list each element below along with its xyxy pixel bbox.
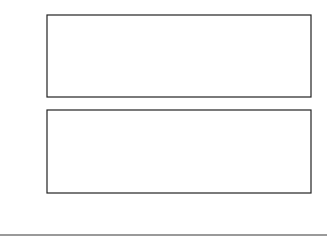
bottom-divider <box>0 234 327 236</box>
figure <box>0 0 327 241</box>
top-plot-frame <box>47 15 311 97</box>
top-panel <box>17 15 311 97</box>
bottom-plot-frame <box>47 110 311 193</box>
bottom-panel <box>47 110 311 193</box>
